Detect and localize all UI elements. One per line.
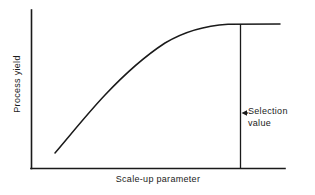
selection-value-annotation: Selection value [248, 106, 288, 129]
chart-figure: Process yield Scale-up parameter Selecti… [0, 0, 315, 195]
annotation-line-1: Selection [248, 106, 288, 118]
annotation-arrow-head [242, 110, 248, 115]
x-axis-label: Scale-up parameter [31, 174, 285, 184]
process-yield-curve [55, 24, 280, 153]
plot-area [0, 0, 315, 195]
y-axis-label: Process yield [12, 42, 22, 126]
annotation-line-2: value [248, 118, 288, 130]
